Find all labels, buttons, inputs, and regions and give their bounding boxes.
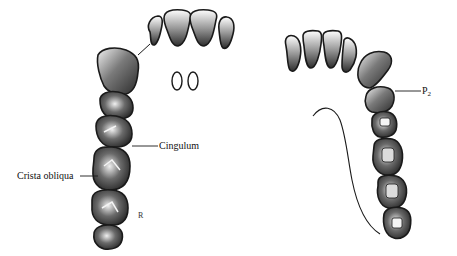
label-p2-subscript: 2 [428,90,432,98]
tooth-molar-1 [93,147,130,190]
connector-line [138,44,150,55]
illustration-canvas [0,0,457,256]
tooth-premolar-1 [100,91,133,119]
tooth-lower-central-incisor-left [303,31,322,68]
right-arch-posterior-teeth [358,52,411,239]
tooth-molar-2 [92,190,128,225]
tooth-central-incisor-right [190,10,217,46]
tooth-lower-canine [358,52,392,89]
artist-signature: R [138,211,143,220]
tooth-lower-lateral-incisor-left [285,35,300,71]
left-arch-posterior-teeth [92,48,139,249]
label-p2: P2 [422,86,431,98]
tooth-lower-premolar-p2 [365,87,394,113]
tooth-molar-3 [94,225,123,249]
papilla-oval-right [188,72,198,90]
left-arch-incisors [148,10,233,49]
tooth-premolar-2 [96,115,132,147]
right-arch-incisors [285,31,356,72]
tooth-lateral-incisor-right [219,17,234,48]
label-cingulum: Cingulum [159,141,199,151]
mandible-ramus-outline [313,108,380,234]
label-crista-obliqua: Crista obliqua [17,171,73,181]
papilla-oval-left [172,72,182,90]
tooth-lower-lateral-incisor-right [342,38,356,72]
dental-arches-figure: Cingulum Crista obliqua P2 R [0,0,457,256]
tooth-central-incisor-left [164,10,191,46]
tooth-lower-central-incisor-right [323,31,342,68]
tooth-lateral-incisor-left [148,16,162,45]
tooth-canine [97,48,138,95]
